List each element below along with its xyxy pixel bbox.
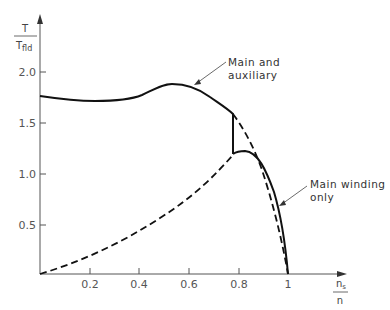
y-axis-label-denominator: Tfld <box>15 40 32 53</box>
x-ticks: 0.2 0.4 0.6 0.8 1 <box>81 268 291 291</box>
y-tick-0.5: 0.5 <box>19 219 37 232</box>
annotation-main-and-auxiliary-line1: Main and <box>228 56 280 68</box>
annotation-arrow-main-and-auxiliary <box>197 62 226 83</box>
x-tick-0.8: 0.8 <box>230 278 248 291</box>
x-tick-1: 1 <box>285 278 292 291</box>
annotation-arrow-main-winding-only <box>282 186 307 204</box>
y-axis-arrow-icon <box>37 14 43 24</box>
annotation-main-winding-only-line1: Main winding <box>310 178 385 190</box>
annotation-main-winding-only-line2: only <box>310 191 334 203</box>
y-ticks: 0.5 1.0 1.5 2.0 <box>19 66 47 232</box>
y-tick-2.0: 2.0 <box>19 66 37 79</box>
y-tick-1.0: 1.0 <box>19 168 37 181</box>
y-axis-label-numerator: T <box>21 23 29 34</box>
curve-dashed-lower <box>40 155 233 274</box>
x-tick-0.6: 0.6 <box>180 278 198 291</box>
x-axis-label-numerator: ns <box>336 278 346 291</box>
annotation-arrowhead-icon <box>194 79 201 85</box>
x-tick-0.2: 0.2 <box>81 278 99 291</box>
curve-dashed-upper <box>233 114 288 274</box>
x-axis-arrow-icon <box>337 271 347 277</box>
torque-speed-chart: T Tfld ns n 0.5 1.0 1.5 2.0 0.2 0.4 0.6 … <box>0 0 390 310</box>
curve-main-and-auxiliary <box>40 84 233 154</box>
x-axis-label-denominator: n <box>337 295 343 306</box>
curve-main-winding-only <box>233 151 288 274</box>
annotation-main-and-auxiliary-line2: auxiliary <box>228 69 278 81</box>
x-tick-0.4: 0.4 <box>130 278 148 291</box>
y-tick-1.5: 1.5 <box>19 117 37 130</box>
annotation-arrowhead-icon <box>279 200 286 206</box>
